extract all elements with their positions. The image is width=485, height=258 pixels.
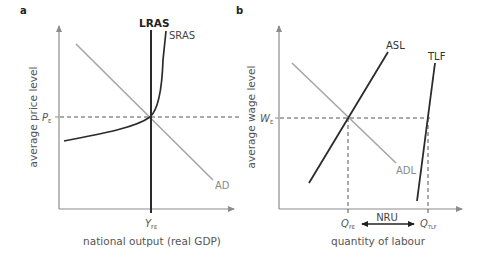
lras-label: LRAS bbox=[139, 17, 169, 29]
qfe-label: QFE bbox=[341, 218, 355, 230]
tlf-label: TLF bbox=[427, 51, 446, 62]
panel-a-y-axis-title: average price level bbox=[27, 67, 39, 168]
panel-b-x-axis-title: quantity of labour bbox=[331, 235, 426, 247]
panel-b-y-axis-title: average wage level bbox=[245, 66, 257, 169]
panel-b: b ASL TLF ADL WE QFE QTLF NRU average wa… bbox=[236, 5, 462, 247]
wage-equilibrium-label: WE bbox=[260, 113, 274, 125]
panel-b-label: b bbox=[236, 5, 243, 16]
tlf-curve bbox=[417, 63, 435, 201]
panel-a-x-axis-title: national output (real GDP) bbox=[83, 235, 221, 247]
asl-label: ASL bbox=[386, 40, 405, 51]
price-equilibrium-label: PE bbox=[42, 112, 52, 124]
nru-label: NRU bbox=[376, 212, 398, 223]
qtlf-label: QTLF bbox=[420, 218, 437, 230]
ad-curve bbox=[76, 44, 213, 180]
adl-label: ADL bbox=[396, 165, 417, 176]
diagram-canvas: a LRAS SRAS AD PE YFE average price leve… bbox=[0, 0, 485, 258]
panel-a-label: a bbox=[20, 5, 27, 16]
output-full-employment-label: YFE bbox=[145, 218, 157, 230]
ad-label: AD bbox=[215, 180, 230, 191]
panel-a: a LRAS SRAS AD PE YFE average price leve… bbox=[20, 5, 240, 247]
sras-label: SRAS bbox=[169, 30, 195, 41]
adl-curve bbox=[292, 63, 396, 163]
